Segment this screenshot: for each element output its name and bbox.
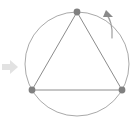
circumscribed-circle (25, 12, 129, 116)
triangle-bottom-right-vertex (119, 87, 126, 94)
diagram-svg: Equilateral triangle inscribed in a circ… (0, 0, 139, 129)
rotation-indicator (103, 10, 113, 38)
inscribed-triangle (32, 12, 122, 90)
pointer-arrow-head-icon (10, 60, 18, 74)
left-transform-pointer-arrow (2, 60, 18, 74)
rotation-diagram-canvas: Equilateral triangle inscribed in a circ… (0, 0, 139, 129)
triangle-bottom-left-vertex (29, 87, 36, 94)
pointer-arrow-shaft (2, 64, 11, 70)
rotation-arc (106, 14, 112, 38)
triangle-top-vertex (74, 9, 81, 16)
rotation-arrow-head-icon (103, 10, 113, 17)
